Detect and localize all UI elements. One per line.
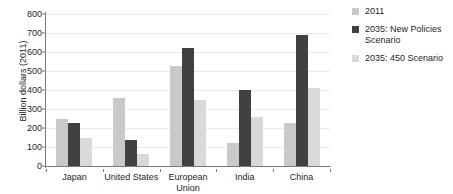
bar[interactable] [80,138,92,167]
y-tick-label: 200 [2,123,42,133]
x-tick-label: Japan [46,172,103,183]
x-tick-mark [216,169,217,172]
x-tick-mark [103,169,104,172]
y-tick-label: 800 [2,9,42,19]
legend: 20112035: New Policies Scenario2035: 450… [352,6,453,71]
bar[interactable] [296,35,308,166]
legend-swatch [352,8,359,15]
x-tick-mark [160,169,161,172]
bar[interactable] [182,48,194,166]
x-tick-label: China [273,172,330,183]
y-tick-label: 0 [2,161,42,171]
y-tick-label: 600 [2,47,42,57]
bar[interactable] [239,90,251,166]
y-axis-ticks: 8007006005004003002001000 [0,14,42,166]
y-tick-label: 500 [2,66,42,76]
x-tick-label: European Union [160,172,217,194]
y-tick-label: 300 [2,104,42,114]
bar[interactable] [284,123,296,166]
x-tick-mark [46,169,47,172]
bar[interactable] [170,66,182,166]
legend-swatch [352,26,359,33]
bar[interactable] [308,88,320,166]
bar-group [273,14,330,166]
y-tick-label: 400 [2,85,42,95]
bar-group [216,14,273,166]
bar[interactable] [56,119,68,167]
legend-label: 2035: New Policies Scenario [365,24,453,46]
bar[interactable] [227,143,239,166]
y-tick-label: 700 [2,28,42,38]
x-tick-mark [273,169,274,172]
legend-item[interactable]: 2011 [352,6,453,17]
legend-label: 2035: 450 Scenario [365,53,443,64]
x-tick-label: United States [103,172,160,183]
legend-label: 2011 [365,6,384,17]
bar-group [103,14,160,166]
bar[interactable] [125,140,137,166]
bar[interactable] [113,98,125,166]
bar-chart: Billion dollars (2011) 80070060050040030… [0,0,453,194]
bar[interactable] [194,100,206,166]
legend-item[interactable]: 2035: 450 Scenario [352,53,453,64]
bar[interactable] [68,123,80,166]
x-axis-line [45,166,331,167]
x-tick-mark [330,169,331,172]
plot-area [46,14,330,166]
bar-group [46,14,103,166]
bar[interactable] [251,117,263,166]
legend-swatch [352,55,359,62]
x-tick-label: India [216,172,273,183]
legend-item[interactable]: 2035: New Policies Scenario [352,24,453,46]
y-tick-label: 100 [2,142,42,152]
bar-group [160,14,217,166]
x-axis-labels: JapanUnited StatesEuropean UnionIndiaChi… [46,169,330,194]
bar[interactable] [137,154,149,166]
